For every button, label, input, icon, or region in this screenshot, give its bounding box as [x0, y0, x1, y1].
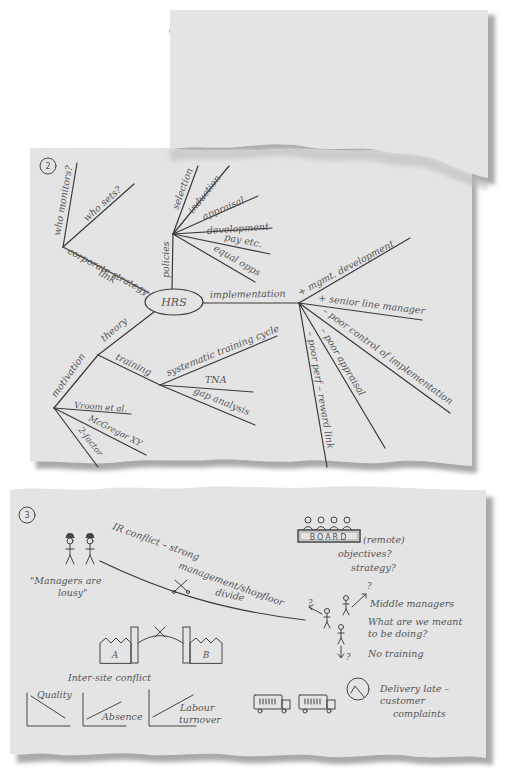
svg-text:Labour: Labour	[179, 702, 216, 713]
svg-text:turnover: turnover	[179, 714, 222, 725]
svg-text:implementation: implementation	[210, 288, 286, 300]
svg-text:HRS: HRS	[160, 296, 187, 309]
delivery-late-label: complaints	[393, 708, 446, 719]
page-2: 2 HRS corporate strategy link who monito…	[30, 10, 488, 473]
svg-text:TNA: TNA	[205, 374, 227, 385]
svg-text:Absence: Absence	[101, 711, 143, 722]
middle-managers-question: to be doing?	[368, 628, 428, 639]
delivery-late-label: Delivery late –	[379, 683, 449, 694]
middle-managers-question: What are we meant	[368, 616, 462, 627]
board-strategy: strategy?	[351, 562, 397, 573]
board-remote: (remote)	[363, 534, 405, 545]
inter-site-conflict-label: Inter-site conflict	[67, 672, 151, 683]
board-objectives: objectives?	[338, 548, 392, 559]
svg-text:A: A	[111, 650, 118, 660]
svg-text:?: ?	[367, 581, 372, 591]
no-training-label: No training	[367, 648, 423, 659]
delivery-late-label: customer	[380, 695, 426, 706]
svg-text:B: B	[202, 650, 209, 660]
middle-managers-label: Middle managers	[369, 598, 454, 609]
svg-text:BOARD: BOARD	[310, 533, 349, 542]
svg-text:3: 3	[24, 511, 29, 520]
svg-text:?: ?	[346, 652, 351, 662]
svg-text:2: 2	[45, 162, 50, 171]
mind-map-notes: 1 Corporate Strategy – HRS link clarity …	[0, 0, 509, 775]
svg-text:Quality: Quality	[37, 689, 72, 700]
workers-quote: "Managers are	[30, 575, 102, 586]
svg-text:?: ?	[308, 598, 313, 608]
workers-quote: lousy"	[58, 587, 88, 598]
page-3: 3 "Managers are lousy"	[10, 486, 493, 765]
svg-text:policies: policies	[160, 241, 171, 278]
